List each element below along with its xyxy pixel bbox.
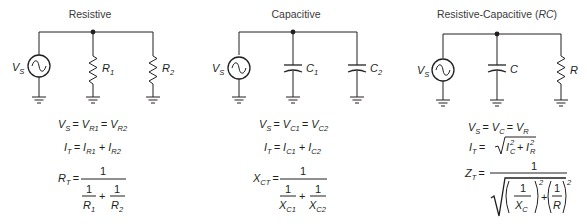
panel-title: Resistive [69, 8, 112, 20]
panel-rc: Resistive-Capacitive (RC) VS C [417, 8, 578, 216]
source-label: VS [417, 64, 429, 79]
resistor-icon [146, 56, 160, 103]
component-label: C1 [306, 62, 318, 77]
component-label: R2 [162, 62, 175, 77]
total-reactance-equation: XCT= 1 1 XC1 + 1 XC2 [252, 165, 327, 214]
svg-text:I: I [526, 141, 529, 153]
svg-text:+: + [299, 190, 305, 202]
junction-node [291, 30, 296, 35]
svg-text:1: 1 [100, 165, 106, 177]
svg-text:R2: R2 [111, 199, 124, 214]
svg-text:1: 1 [300, 165, 306, 177]
source-label: VS [212, 62, 224, 77]
svg-text:R1: R1 [83, 199, 95, 214]
current-equation: IT=IR1+IR2 [64, 141, 122, 156]
total-impedance-equation: ZT= 1 1 XC 2 + 1 R 2 [464, 160, 572, 216]
svg-text:1: 1 [86, 183, 92, 195]
svg-text:2: 2 [529, 138, 535, 147]
svg-text:2: 2 [566, 178, 572, 187]
source-label: VS [12, 61, 24, 76]
svg-text:2: 2 [509, 138, 515, 147]
svg-text:R: R [530, 147, 536, 156]
panel-title: Capacitive [271, 8, 320, 20]
resistor-icon [86, 56, 100, 103]
voltage-equation: VS=VC1=VC2 [259, 118, 329, 133]
svg-text:ZT=: ZT= [464, 167, 485, 182]
resistor-icon [554, 56, 568, 106]
ac-source-icon [432, 59, 454, 106]
capacitor-icon [284, 65, 302, 103]
capacitor-icon [348, 65, 366, 103]
svg-text:XC: XC [514, 199, 528, 214]
svg-text:1: 1 [114, 183, 120, 195]
panel-capacitive: Capacitive VS C1 C2 [212, 8, 383, 214]
component-label: R1 [102, 62, 114, 77]
panel-resistive: Resistive VS R1 R2 [12, 8, 175, 214]
current-equation: IT=IC1+IC2 [264, 141, 322, 156]
svg-text:I: I [506, 141, 509, 153]
svg-text:1: 1 [554, 182, 560, 194]
svg-text:1: 1 [315, 183, 321, 195]
junction-node [495, 32, 500, 37]
svg-text:+: + [541, 191, 547, 203]
svg-text:1: 1 [520, 182, 526, 194]
panel-title: Resistive-Capacitive (RC) [437, 8, 557, 20]
component-label: R [570, 64, 578, 76]
svg-text:2: 2 [538, 178, 544, 187]
svg-text:+: + [517, 141, 523, 153]
ac-source-icon [28, 55, 50, 103]
svg-text:RT=: RT= [58, 172, 80, 187]
component-label: C2 [370, 62, 383, 77]
component-label: C [510, 63, 518, 75]
ac-source-icon [228, 57, 250, 103]
svg-text:1: 1 [531, 160, 537, 172]
circuit-resistive: VS R1 R2 [12, 30, 175, 103]
junction-node [91, 30, 96, 35]
svg-text:R: R [553, 199, 561, 211]
svg-text:1: 1 [285, 183, 291, 195]
svg-text:IT=: IT= [469, 141, 486, 156]
svg-text:+: + [99, 190, 105, 202]
voltage-equation: VS=VR1=VR2 [58, 118, 128, 133]
circuit-rc: VS C R [417, 32, 578, 106]
svg-text:C: C [510, 147, 516, 156]
svg-text:XC1: XC1 [278, 199, 296, 214]
svg-text:XCT=: XCT= [252, 172, 279, 187]
svg-text:XC2: XC2 [308, 199, 327, 214]
voltage-equation: VS=VC=VR [468, 121, 529, 136]
circuit-capacitive: VS C1 C2 [212, 30, 383, 103]
current-equation: IT= I 2 C + I 2 R [469, 137, 536, 156]
capacitor-icon [488, 65, 506, 106]
total-resistance-equation: RT= 1 1 R1 + 1 R2 [58, 165, 126, 214]
